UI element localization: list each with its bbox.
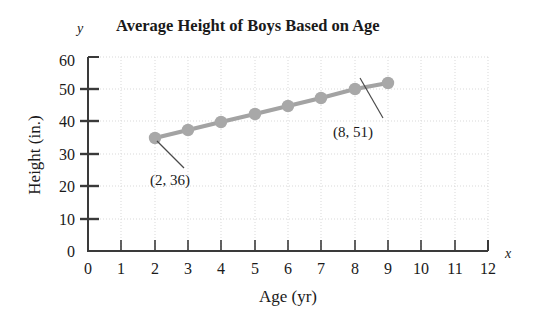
data-point-age-4 — [215, 116, 227, 128]
data-point-age-2 — [149, 132, 161, 144]
y-tick-labels: 60 50 40 30 20 10 0 — [59, 52, 75, 260]
x-tick-label-9: 9 — [384, 260, 392, 277]
x-tick-labels: 0 1 2 3 4 5 6 7 8 9 10 11 12 — [84, 260, 496, 277]
y-axis-title: Height (in.) — [25, 115, 44, 194]
x-tick-label-4: 4 — [217, 260, 225, 277]
x-tick-marks — [121, 240, 455, 251]
x-tick-label-6: 6 — [284, 260, 292, 277]
x-axis-letter: x — [504, 246, 512, 261]
y-tick-label-30: 30 — [59, 146, 75, 163]
y-tick-label-60: 60 — [59, 52, 75, 69]
chart-figure: Average Height of Boys Based on Age y x — [0, 0, 535, 323]
x-axis-title: Age (yr) — [259, 287, 317, 306]
x-tick-label-1: 1 — [117, 260, 125, 277]
data-point-age-8 — [349, 83, 361, 95]
data-point-age-7 — [315, 92, 327, 104]
annotation-label-2: (8, 51) — [333, 124, 373, 141]
data-point-age-5 — [249, 108, 261, 120]
y-tick-label-40: 40 — [59, 113, 75, 130]
x-tick-label-11: 11 — [447, 260, 462, 277]
y-tick-label-50: 50 — [59, 81, 75, 98]
y-tick-marks — [80, 89, 99, 219]
x-tick-label-12: 12 — [480, 260, 496, 277]
y-axis-letter: y — [75, 21, 84, 36]
annotation-label-1: (2, 36) — [150, 172, 190, 189]
x-tick-label-10: 10 — [413, 260, 429, 277]
x-tick-label-2: 2 — [151, 260, 159, 277]
x-tick-label-3: 3 — [184, 260, 192, 277]
data-point-age-3 — [182, 124, 194, 136]
annotation-2-36: (2, 36) — [150, 141, 190, 189]
x-tick-label-5: 5 — [251, 260, 259, 277]
x-tick-label-7: 7 — [317, 260, 325, 277]
data-point-age-6 — [282, 100, 294, 112]
annotation-leader-line-1 — [157, 141, 184, 168]
y-tick-label-20: 20 — [59, 178, 75, 195]
y-tick-label-0: 0 — [67, 243, 75, 260]
x-tick-label-0: 0 — [84, 260, 92, 277]
chart-title: Average Height of Boys Based on Age — [116, 16, 380, 35]
chart-canvas: Average Height of Boys Based on Age y x — [0, 0, 535, 323]
x-tick-label-8: 8 — [351, 260, 359, 277]
y-tick-label-10: 10 — [59, 211, 75, 228]
data-point-age-9 — [382, 77, 394, 89]
